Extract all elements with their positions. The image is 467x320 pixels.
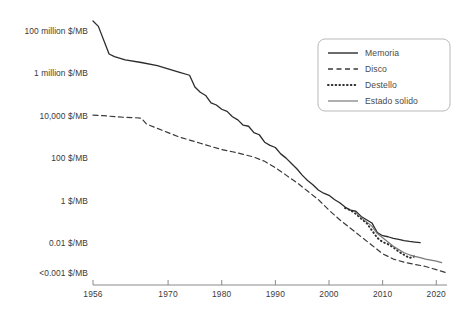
x-axis-group: 1956197019801990200020102020 (83, 280, 447, 299)
legend-label-destello: Destello (365, 80, 397, 90)
legend-label-memoria: Memoria (365, 48, 399, 58)
series-line-estado-solido (356, 212, 442, 262)
series-line-destello (345, 208, 415, 258)
x-axis-tick-label: 2020 (427, 289, 447, 299)
series-line-disco (93, 115, 447, 273)
x-axis-tick-label: 2010 (373, 289, 393, 299)
y-axis-tick-label: 0.01 $/MB (49, 238, 88, 248)
chart-container: 100 million $/MB1 million $/MB10,000 $/M… (0, 0, 467, 320)
y-axis-tick-label: <0.001 $/MB (39, 268, 88, 278)
x-axis-tick-label: 1956 (83, 289, 103, 299)
y-axis-tick-label: 1 million $/MB (34, 68, 88, 78)
x-axis-tick-label: 1990 (266, 289, 286, 299)
chart-legend: MemoriaDiscoDestelloEstado solido (318, 39, 450, 111)
y-axis-tick-label: 10,000 $/MB (39, 111, 88, 121)
x-axis-tick-label: 1980 (212, 289, 232, 299)
legend-label-estado-solido: Estado solido (365, 96, 418, 106)
y-axis-label-group: 100 million $/MB1 million $/MB10,000 $/M… (24, 26, 88, 278)
y-axis-tick-label: 1 $/MB (61, 196, 88, 206)
x-axis-tick-label: 1970 (158, 289, 178, 299)
y-axis-tick-label: 100 million $/MB (24, 26, 88, 36)
y-axis-tick-label: 100 $/MB (51, 153, 88, 163)
cost-per-megabyte-line-chart: 100 million $/MB1 million $/MB10,000 $/M… (0, 0, 467, 320)
data-series-group (93, 21, 447, 273)
x-axis-tick-label: 2000 (319, 289, 339, 299)
legend-label-disco: Disco (365, 64, 387, 74)
